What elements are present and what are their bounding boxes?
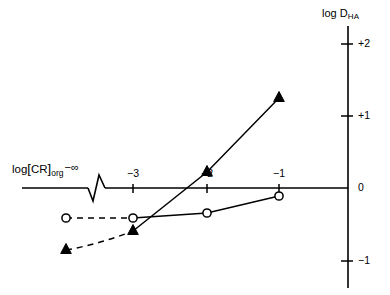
y-axis-title: log DHA (322, 8, 359, 21)
y-tick-label-+1: +1 (358, 110, 370, 121)
y-tick-label--1: −1 (358, 255, 370, 266)
x-axis-break-zigzag (88, 175, 105, 201)
x-axis-title-main: log (12, 163, 27, 175)
x-axis-title-subscript: org (51, 168, 63, 178)
y-tick-label-+2: +2 (358, 38, 370, 49)
data-point-triangle--3 (128, 225, 139, 235)
y-axis-title-subscript: HA (348, 12, 360, 21)
figure-container: log DHA log[CR]org−∞ −3 −2 −1 +2 +1 0 −1 (0, 0, 390, 295)
triangle-series-dashed-segment (66, 231, 133, 250)
y-axis-title-main: log D (322, 7, 348, 19)
x-tick-label--1: −1 (273, 168, 285, 179)
x-tick-label--2: −2 (201, 168, 213, 179)
x-axis-title-species: CR (31, 163, 48, 175)
data-point-circle--1 (275, 192, 283, 200)
data-point-circle--3 (129, 214, 137, 222)
data-point-triangle-neg-inf (61, 244, 72, 254)
y-tick-label-0: 0 (358, 182, 364, 193)
x-axis-break-label: −∞ (65, 161, 79, 173)
data-point-triangle--1 (274, 92, 285, 102)
data-point-circle--2 (203, 209, 211, 217)
plot-canvas (0, 0, 390, 295)
x-tick-label--3: −3 (127, 168, 139, 179)
data-point-circle-neg-inf (62, 214, 70, 222)
x-axis-title: log[CR]org−∞ (12, 162, 79, 177)
